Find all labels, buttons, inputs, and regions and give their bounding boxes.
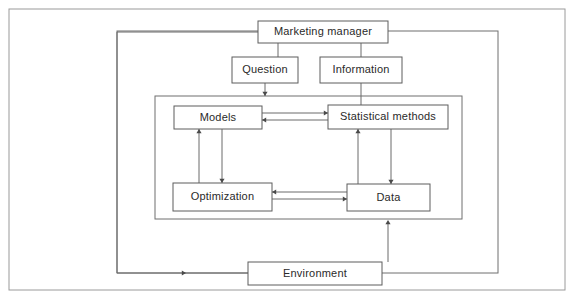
arrow-head-icon [324,110,328,115]
node-optimization[interactable]: Optimization [173,183,272,211]
diagram-canvas: Marketing managerQuestionInformationMode… [0,0,577,302]
arrow-head-icon [219,179,224,183]
node-statistical-methods[interactable]: Statistical methods [328,105,448,129]
arrow-head-icon [385,220,390,224]
node-data[interactable]: Data [347,184,430,211]
group-box-system-boundary [117,31,498,273]
connector-question-to-core [262,83,267,96]
arrow-head-icon [262,117,266,122]
connector-models-to-optimization [219,129,224,183]
page-frame [9,9,565,290]
node-question[interactable]: Question [232,57,298,83]
node-label-data: Data [376,191,401,203]
arrow-head-icon [355,129,360,133]
arrow-head-icon [262,92,267,96]
arrow-head-icon [343,196,347,201]
node-label-environment: Environment [283,267,347,279]
node-label-information: Information [332,63,389,75]
connector-statistical-methods-to-data [388,129,393,184]
node-label-statistical-methods: Statistical methods [340,110,436,122]
node-label-optimization: Optimization [191,190,255,202]
node-models[interactable]: Models [174,106,262,129]
connector-data-to-statistical-methods [355,129,360,184]
connector-environment-to-core [385,220,390,262]
connector-data-to-optimization [272,189,347,194]
arrow-head-icon [196,129,201,133]
node-label-models: Models [200,111,237,123]
group-boxes-layer [117,31,498,273]
connector-optimization-to-models [196,129,201,183]
node-environment[interactable]: Environment [248,262,382,285]
connector-optimization-to-data [272,196,347,201]
connector-statistical-methods-to-models [262,117,328,122]
node-marketing-manager[interactable]: Marketing manager [258,21,388,43]
node-label-question: Question [242,63,288,75]
node-label-marketing-manager: Marketing manager [274,25,372,37]
arrow-head-icon [182,270,186,275]
marketing-dss-diagram: Marketing managerQuestionInformationMode… [0,0,577,302]
arrow-head-icon [388,180,393,184]
node-information[interactable]: Information [320,57,402,83]
nodes-layer: Marketing managerQuestionInformationMode… [173,21,448,285]
arrow-head-icon [272,189,276,194]
connector-models-to-statistical-methods [262,110,328,115]
